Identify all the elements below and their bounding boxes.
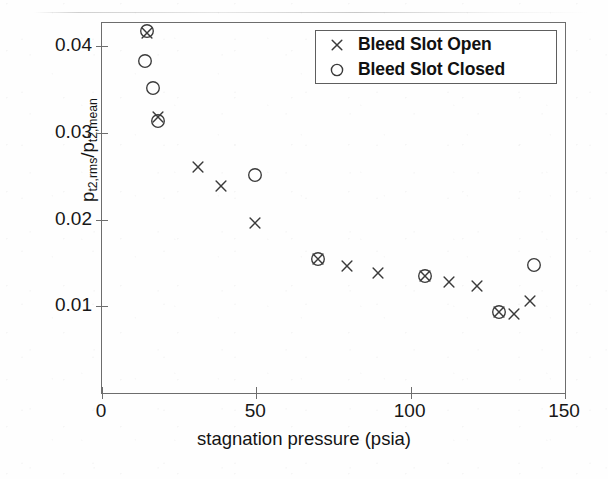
y-axis-tick-mark-inner [102,306,108,307]
data-point-cross [442,275,457,290]
data-point-circle [144,79,161,96]
y-axis-tick-label: 0.04 [0,34,92,56]
data-point-cross [507,307,522,322]
data-point-cross [470,278,485,293]
y-axis-title-numerator-base: p [77,192,98,202]
y-axis-tick-label: 0.03 [0,121,92,143]
x-axis-tick-mark-inner [565,387,566,393]
data-point-circle [416,268,433,285]
x-axis-tick-mark [256,393,257,399]
data-point-circle [490,303,507,320]
x-axis-tick-label: 100 [394,400,426,422]
legend-entry-bleed-slot-closed: Bleed Slot Closed [316,57,556,82]
legend-circle-icon [316,62,358,78]
figure-container: pt2,rms/pt2,mean stagnation pressure (ps… [0,0,608,479]
data-point-cross [491,304,506,319]
chart-legend: Bleed Slot Open Bleed Slot Closed [315,30,557,84]
x-axis-tick-mark [102,393,103,399]
x-axis-title: stagnation pressure (psia) [0,428,608,450]
data-point-cross [213,178,228,193]
data-point-cross [340,259,355,274]
data-point-circle [526,256,543,273]
data-point-cross [371,265,386,280]
data-point-cross [139,25,154,40]
x-axis-tick-mark [411,393,412,399]
scan-artifact-line [34,12,590,13]
data-point-cross [311,251,326,266]
legend-entry-bleed-slot-open: Bleed Slot Open [316,32,556,57]
data-point-cross [190,159,205,174]
y-axis-tick-mark-inner [102,220,108,221]
data-point-cross [522,294,537,309]
y-axis-tick-label: 0.02 [0,208,92,230]
y-axis-tick-label: 0.01 [0,294,92,316]
y-axis-title-denominator-base: p [77,142,98,152]
x-axis-tick-label: 50 [245,400,266,422]
y-axis-tick-mark-inner [102,133,108,134]
y-axis-title-slash: / [77,153,98,158]
x-axis-tick-mark-inner [102,387,103,393]
data-point-circle [310,250,327,267]
data-point-circle [137,53,154,70]
data-point-circle [138,22,155,39]
x-axis-tick-mark-inner [411,387,412,393]
data-point-circle [246,166,263,183]
x-axis-tick-mark [565,393,566,399]
x-axis-tick-label: 150 [548,400,580,422]
x-axis-tick-mark-inner [256,387,257,393]
legend-cross-icon [316,37,358,53]
data-point-circle [149,112,166,129]
y-axis-title-numerator-sub: t2,rms [86,158,100,192]
data-point-cross [247,216,262,231]
y-axis-tick-mark-inner [102,46,108,47]
data-point-cross [150,109,165,124]
x-axis-tick-label: 0 [96,400,107,422]
legend-label-bleed-slot-closed: Bleed Slot Closed [358,59,505,80]
legend-label-bleed-slot-open: Bleed Slot Open [358,34,492,55]
data-point-cross [417,269,432,284]
